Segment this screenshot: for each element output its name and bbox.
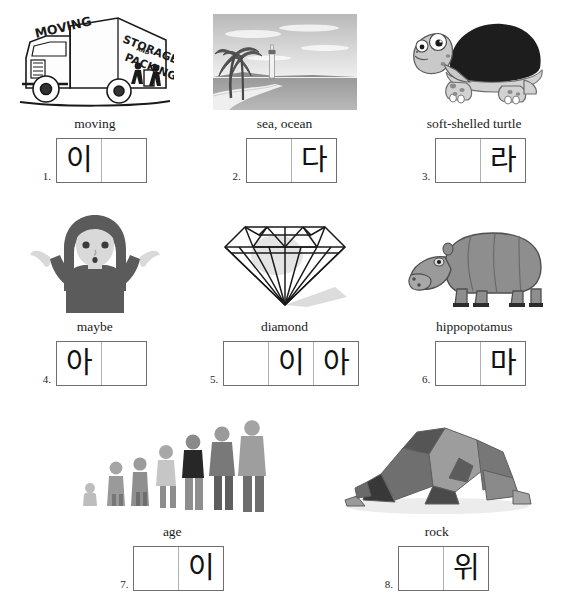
exercise-item-5: diamond 5. 이 아 <box>190 203 380 399</box>
syllable-boxes[interactable]: 다 <box>246 138 337 183</box>
answer-area: 4. 아 <box>43 341 147 386</box>
item-caption: sea, ocean <box>257 116 312 131</box>
question-number: 4. <box>43 373 51 386</box>
syllable-box[interactable]: 위 <box>444 547 488 590</box>
syllable-box[interactable] <box>399 547 444 590</box>
syllable-box[interactable]: 이 <box>269 342 314 385</box>
worksheet-page: MOVING STORAGE AND PACKING moving <box>0 0 569 595</box>
syllable-boxes[interactable]: 이 <box>133 546 224 591</box>
syllable-box[interactable] <box>102 139 146 182</box>
picture-hippopotamus <box>379 205 569 313</box>
syllable-box[interactable] <box>134 547 179 590</box>
exercise-row-2: maybe 4. 아 <box>0 203 569 399</box>
question-number: 2. <box>232 170 240 183</box>
syllable-boxes[interactable]: 아 <box>56 341 147 386</box>
exercise-item-7: age 7. 이 <box>40 404 305 595</box>
syllable-box[interactable]: 아 <box>314 342 358 385</box>
item-caption: moving <box>74 116 115 131</box>
syllable-box[interactable]: 마 <box>481 342 525 385</box>
picture-people-ages <box>40 406 305 518</box>
item-caption: diamond <box>261 319 308 334</box>
syllable-box[interactable]: 다 <box>292 139 336 182</box>
item-caption: rock <box>425 524 449 539</box>
answer-area: 3. 라 <box>422 138 526 183</box>
picture-moving-truck: MOVING STORAGE AND PACKING <box>0 2 190 110</box>
syllable-box[interactable] <box>224 342 269 385</box>
question-number: 8. <box>385 578 393 591</box>
question-number: 7. <box>120 578 128 591</box>
item-caption: age <box>163 524 182 539</box>
syllable-boxes[interactable]: 이 <box>56 138 147 183</box>
item-caption: hippopotamus <box>436 319 513 334</box>
row-spacer <box>0 404 40 595</box>
answer-area: 5. 이 아 <box>210 341 359 386</box>
syllable-box[interactable]: 아 <box>57 342 102 385</box>
picture-turtle <box>379 2 569 110</box>
item-caption: maybe <box>77 319 113 334</box>
syllable-box[interactable] <box>436 139 481 182</box>
syllable-boxes[interactable]: 위 <box>398 546 489 591</box>
exercise-item-8: rock 8. 위 <box>305 404 569 595</box>
syllable-boxes[interactable]: 라 <box>435 138 526 183</box>
syllable-box[interactable]: 이 <box>57 139 102 182</box>
syllable-box[interactable] <box>247 139 292 182</box>
exercise-item-2: sea, ocean 2. 다 <box>190 0 380 196</box>
picture-beach-ocean <box>190 2 380 110</box>
question-number: 3. <box>422 170 430 183</box>
item-caption: soft-shelled turtle <box>427 116 522 131</box>
question-number: 1. <box>43 170 51 183</box>
exercise-item-3: soft-shelled turtle 3. 라 <box>379 0 569 196</box>
syllable-box[interactable]: 이 <box>179 547 223 590</box>
syllable-box[interactable]: 라 <box>481 139 525 182</box>
answer-area: 7. 이 <box>120 546 224 591</box>
picture-shrugging-woman <box>0 205 190 313</box>
answer-area: 6. 마 <box>422 341 526 386</box>
exercise-item-6: hippopotamus 6. 마 <box>379 203 569 399</box>
syllable-boxes[interactable]: 이 아 <box>223 341 359 386</box>
syllable-boxes[interactable]: 마 <box>435 341 526 386</box>
answer-area: 8. 위 <box>385 546 489 591</box>
answer-area: 1. 이 <box>43 138 147 183</box>
picture-rock-pile <box>305 406 569 518</box>
syllable-box[interactable] <box>436 342 481 385</box>
exercise-row-3: age 7. 이 <box>0 404 569 595</box>
question-number: 6. <box>422 373 430 386</box>
syllable-box[interactable] <box>102 342 146 385</box>
exercise-row-1: MOVING STORAGE AND PACKING moving <box>0 0 569 196</box>
answer-area: 2. 다 <box>232 138 336 183</box>
question-number: 5. <box>210 373 218 386</box>
picture-diamond <box>190 205 380 313</box>
exercise-item-4: maybe 4. 아 <box>0 203 190 399</box>
exercise-item-1: MOVING STORAGE AND PACKING moving <box>0 0 190 196</box>
